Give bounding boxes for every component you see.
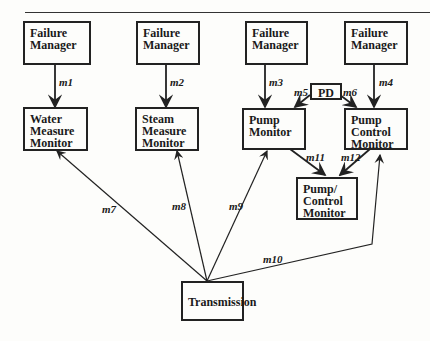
edge-label-m2: m2 <box>170 76 184 88</box>
failure-manager-1: Failure Manager <box>23 21 91 65</box>
pd-box: PD <box>310 83 342 100</box>
edge-label-m9: m9 <box>229 200 243 212</box>
edge-label-m11: m11 <box>306 151 325 163</box>
edge-label-m5: m5 <box>294 86 308 98</box>
pump-control-monitor: Pump Control Monitor <box>344 108 408 150</box>
edge-label-m7: m7 <box>102 203 116 215</box>
failure-manager-3: Failure Manager <box>245 21 308 65</box>
failure-manager-2: Failure Manager <box>136 21 200 65</box>
edge-label-m8: m8 <box>172 200 186 212</box>
edge-label-m6: m6 <box>343 86 357 98</box>
transmission: Transmission <box>181 281 244 321</box>
edge-label-m10: m10 <box>263 253 283 265</box>
edge-label-m12: m12 <box>341 151 361 163</box>
edge-label-m1: m1 <box>59 76 73 88</box>
pump-control-monitor-2: Pump/ Control Monitor <box>296 177 358 220</box>
edge-label-m4: m4 <box>379 76 393 88</box>
steam-measure-monitor: Steam Measure Monitor <box>135 107 199 151</box>
edge-label-m3: m3 <box>269 76 283 88</box>
failure-manager-4: Failure Manager <box>344 21 408 65</box>
pump-monitor: Pump Monitor <box>242 108 306 150</box>
water-measure-monitor: Water Measure Monitor <box>23 107 88 151</box>
